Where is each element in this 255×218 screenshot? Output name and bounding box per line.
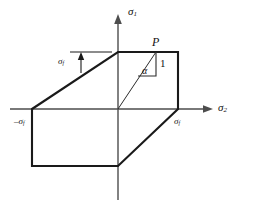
sigma1-axis-arrowhead [114,14,122,24]
point-p-label: P [152,36,159,48]
axes-group [10,14,213,200]
unit-rise-label: 1 [160,58,166,69]
sigma-f-dimension-label: σf [58,57,64,66]
sigma2-axis-label: σ2 [218,102,227,113]
figure-canvas [0,0,255,218]
alpha-angle-label: α [142,66,147,76]
construction-group [118,52,156,109]
yield-locus-figure: σ1 σ2 σf –σf σf P 1 α [0,0,255,218]
sigma-f-dimension-arrowhead [78,52,84,60]
negative-sigma-f-label: –σf [14,117,25,126]
positive-sigma-f-label: σf [174,117,180,126]
stress-ray-to-p [118,52,156,109]
sigma2-axis-arrowhead [203,105,213,113]
sigma1-axis-label: σ1 [128,6,137,17]
